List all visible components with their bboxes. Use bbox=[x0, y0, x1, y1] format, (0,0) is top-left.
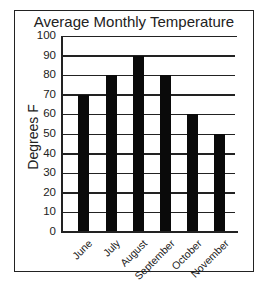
y-tick-label: 30 bbox=[26, 166, 56, 178]
gridline bbox=[61, 75, 235, 77]
bar-september bbox=[160, 75, 171, 232]
y-tick-label: 90 bbox=[26, 49, 56, 61]
bar-october bbox=[187, 114, 198, 232]
bar-august bbox=[133, 56, 144, 232]
gridline bbox=[61, 36, 237, 38]
x-tick-label: June bbox=[70, 237, 95, 262]
bar-november bbox=[214, 134, 225, 232]
bar-june bbox=[78, 95, 89, 232]
y-axis-line bbox=[61, 36, 63, 233]
y-tick-label: 80 bbox=[26, 68, 56, 80]
y-tick-label: 0 bbox=[26, 225, 56, 237]
y-tick-label: 20 bbox=[26, 186, 56, 198]
x-tick-label: July bbox=[101, 237, 123, 259]
y-tick-label: 10 bbox=[26, 205, 56, 217]
y-tick-label: 70 bbox=[26, 88, 56, 100]
bar-july bbox=[106, 75, 117, 232]
y-tick-label: 50 bbox=[26, 127, 56, 139]
plot-area: Degrees F 0102030405060708090100 JuneJul… bbox=[0, 0, 258, 291]
y-tick-label: 60 bbox=[26, 107, 56, 119]
gridline bbox=[61, 55, 235, 57]
y-tick-label: 40 bbox=[26, 147, 56, 159]
y-tick-label: 100 bbox=[26, 29, 56, 41]
x-axis-line bbox=[61, 231, 238, 233]
